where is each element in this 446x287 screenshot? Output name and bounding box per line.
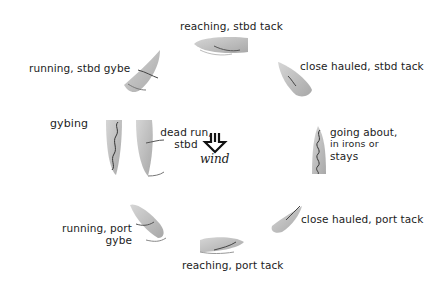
label-gybing: gybing — [50, 118, 88, 130]
label-close-hauled-stbd: close hauled, stbd tack — [300, 60, 424, 72]
label-line: stays — [330, 150, 398, 162]
wind-label: wind — [200, 152, 230, 166]
label-running-port: running, port gybe — [48, 222, 132, 246]
boat-gybing-icon — [106, 120, 122, 175]
label-line: gybe — [48, 234, 132, 246]
label-line: in irons or — [330, 138, 398, 150]
points-of-sail-diagram: reaching, stbd tack close hauled, stbd t… — [0, 0, 446, 287]
boat-going-about-icon — [312, 126, 326, 174]
boat-reaching-stbd-icon — [194, 37, 248, 55]
label-line: dead run, — [156, 126, 216, 138]
label-dead-run-stbd: dead run, stbd — [156, 126, 216, 150]
label-reaching-port: reaching, port tack — [182, 259, 284, 271]
label-close-hauled-port: close hauled, port tack — [301, 213, 423, 225]
label-running-stbd: running, stbd gybe — [29, 62, 130, 74]
label-going-about: going about, in irons or stays — [330, 126, 398, 162]
label-line: stbd — [156, 138, 216, 150]
label-line: going about, — [330, 126, 398, 138]
label-line: running, port — [48, 222, 132, 234]
label-reaching-stbd: reaching, stbd tack — [180, 20, 283, 32]
boat-close-hauled-port-icon — [272, 206, 302, 233]
boat-reaching-port-icon — [200, 237, 244, 253]
boat-running-port-icon — [130, 204, 166, 241]
